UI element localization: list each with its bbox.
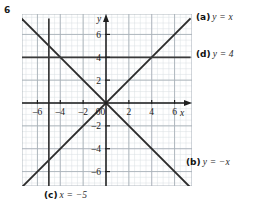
- y-tick-label: 4: [96, 53, 101, 63]
- callout-line-d: (d)y = 4: [196, 49, 234, 60]
- callout-c-equation: x = −5: [60, 190, 88, 200]
- x-tick-label: 6: [172, 107, 177, 117]
- callout-a-tag: (a): [196, 12, 210, 22]
- callout-b-tag: (b): [186, 157, 201, 167]
- y-axis-label: y: [96, 14, 102, 24]
- callout-b-equation: y = −x: [203, 157, 230, 167]
- coordinate-graph-figure: –6–4–20246–6–4–22460 x y: [0, 0, 256, 216]
- x-tick-label: –6: [32, 107, 43, 117]
- callout-c-tag: (c): [44, 190, 58, 200]
- y-tick-label: –2: [91, 121, 102, 131]
- y-tick-label: 6: [96, 30, 101, 40]
- origin-label: 0: [96, 107, 101, 117]
- x-axis-label: x: [179, 108, 185, 118]
- callout-line-b: (b)y = −x: [186, 157, 230, 168]
- x-tick-label: 2: [126, 107, 131, 117]
- y-tick-label: –6: [91, 167, 102, 177]
- callout-line-a: (a)y = x: [196, 12, 233, 23]
- callout-a-equation: y = x: [212, 12, 233, 22]
- y-tick-label: 2: [96, 76, 101, 86]
- x-tick-label: 4: [149, 107, 154, 117]
- worksheet-page: 6: [0, 0, 256, 216]
- y-tick-label: –4: [91, 144, 102, 154]
- x-tick-label: 0: [101, 107, 106, 117]
- coordinate-graph-svg: –6–4–20246–6–4–22460 x y: [0, 0, 256, 216]
- x-tick-label: –4: [55, 107, 66, 117]
- callout-line-c: (c)x = −5: [44, 190, 87, 201]
- callout-d-tag: (d): [196, 49, 211, 59]
- x-tick-label: –2: [77, 107, 88, 117]
- callout-d-equation: y = 4: [213, 49, 234, 59]
